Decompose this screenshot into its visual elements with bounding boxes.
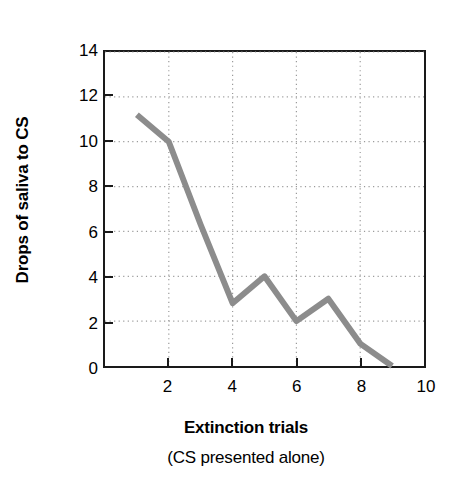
x-axis-title: Extinction trials	[46, 418, 446, 438]
y-tick-label: 10	[58, 132, 98, 149]
y-tick-label: 8	[58, 178, 98, 195]
x-axis-subtitle: (CS presented alone)	[46, 448, 446, 468]
chart-figure: Drops of saliva to CS 02468101214 246810…	[0, 0, 454, 497]
y-tick-label: 0	[58, 360, 98, 377]
y-tick-label: 6	[58, 223, 98, 240]
y-axis-title-text: Drops of saliva to CS	[13, 117, 33, 284]
data-line	[137, 115, 392, 366]
x-tick-label: 4	[212, 378, 252, 395]
y-tick-label: 2	[58, 314, 98, 331]
data-line-series	[105, 52, 424, 366]
y-axis-title: Drops of saliva to CS	[0, 0, 46, 400]
x-tick-label: 6	[277, 378, 317, 395]
y-tick-label: 12	[58, 87, 98, 104]
plot-area	[103, 50, 426, 368]
x-tick-label: 10	[406, 378, 446, 395]
y-tick-label: 4	[58, 269, 98, 286]
y-tick-label: 14	[58, 42, 98, 59]
x-tick-label: 2	[148, 378, 188, 395]
x-tick-label: 8	[341, 378, 381, 395]
